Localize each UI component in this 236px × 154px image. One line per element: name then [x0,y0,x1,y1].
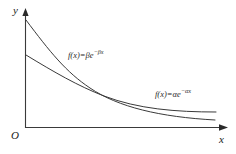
alpha-label-exponent: −αx [181,87,191,94]
alpha-label-fx: f(x)= [155,89,173,99]
beta-label-fx: f(x)= [68,50,86,60]
exponential-decay-figure: y x O f(x)=βe−βx f(x)=αe−αx [0,0,236,154]
origin-label: O [11,130,19,141]
beta-label-coefficient: βe [86,50,94,60]
x-axis-arrowhead [219,124,228,131]
y-axis-label: y [13,5,18,16]
alpha-curve-label: f(x)=αe−αx [155,90,191,99]
beta-curve-label: f(x)=βe−βx [68,51,104,60]
beta-curve-path [26,20,215,120]
y-axis-arrowhead [22,8,28,16]
beta-label-exponent: −βx [94,48,104,55]
plot-canvas [0,0,236,154]
x-axis-label: x [219,134,224,145]
alpha-label-coefficient: αe [173,89,181,99]
